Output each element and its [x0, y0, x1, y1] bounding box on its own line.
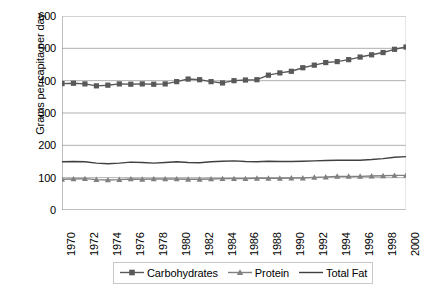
legend-marker-icon	[298, 267, 324, 278]
data-point-marker	[266, 73, 271, 78]
x-tick-label: 2000	[410, 212, 421, 256]
data-point-marker	[62, 81, 65, 86]
data-point-marker	[403, 44, 406, 49]
data-point-marker	[151, 82, 156, 87]
legend-item[interactable]: Total Fat	[298, 267, 367, 279]
data-point-marker	[335, 59, 340, 64]
legend-label: Protein	[255, 267, 289, 279]
data-point-marker	[300, 65, 305, 70]
x-tick-label: 1970	[66, 212, 77, 256]
y-tick-label: 500	[22, 43, 56, 54]
legend-marker-icon	[119, 267, 145, 278]
x-tick-label: 1994	[341, 212, 352, 256]
plot-svg	[62, 16, 406, 210]
data-point-marker	[380, 50, 385, 55]
data-point-marker	[105, 83, 110, 88]
x-axis-tick-labels: 1970197219741976197819801982198419861988…	[62, 212, 406, 258]
data-point-marker	[140, 81, 145, 86]
series-line	[62, 157, 406, 164]
line-chart: Grams per capita per day 010020030040050…	[0, 0, 423, 295]
data-point-marker	[312, 63, 317, 68]
data-point-marker	[174, 79, 179, 84]
data-point-marker	[392, 47, 397, 52]
x-tick-label: 1984	[227, 212, 238, 256]
x-tick-label: 1982	[204, 212, 215, 256]
data-point-marker	[94, 83, 99, 88]
x-tick-label: 1988	[272, 212, 283, 256]
data-point-marker	[208, 79, 213, 84]
x-tick-label: 1976	[135, 212, 146, 256]
x-tick-label: 1972	[89, 212, 100, 256]
data-point-marker	[346, 57, 351, 62]
legend-label: Carbohydrates	[147, 267, 218, 279]
x-tick-label: 1996	[364, 212, 375, 256]
legend-label: Total Fat	[326, 267, 367, 279]
y-axis-tick-labels: 0100200300400500600	[16, 0, 56, 295]
data-point-marker	[289, 69, 294, 74]
x-tick-label: 1998	[387, 212, 398, 256]
y-tick-label: 0	[22, 205, 56, 216]
y-tick-label: 200	[22, 140, 56, 151]
data-point-marker	[186, 76, 191, 81]
data-point-marker	[163, 81, 168, 86]
x-tick-label: 1990	[295, 212, 306, 256]
y-tick-label: 600	[22, 11, 56, 22]
data-point-marker	[231, 78, 236, 83]
data-point-marker	[358, 54, 363, 59]
legend-item[interactable]: Carbohydrates	[119, 267, 218, 279]
chart-legend: CarbohydratesProteinTotal Fat	[113, 262, 373, 284]
data-point-marker	[117, 81, 122, 86]
data-point-marker	[197, 77, 202, 82]
legend-item[interactable]: Protein	[227, 267, 289, 279]
data-point-marker	[323, 60, 328, 65]
x-tick-label: 1980	[181, 212, 192, 256]
data-point-marker	[220, 80, 225, 85]
legend-marker-icon	[227, 267, 253, 278]
data-point-marker	[369, 52, 374, 57]
x-tick-label: 1992	[318, 212, 329, 256]
data-point-marker	[71, 81, 76, 86]
data-point-marker	[82, 81, 87, 86]
x-tick-label: 1974	[112, 212, 123, 256]
data-point-marker	[243, 77, 248, 82]
y-tick-label: 300	[22, 108, 56, 119]
x-tick-label: 1986	[249, 212, 260, 256]
data-point-marker	[128, 82, 133, 87]
data-point-marker	[277, 70, 282, 75]
y-tick-label: 100	[22, 173, 56, 184]
plot-area	[62, 16, 406, 210]
x-tick-label: 1978	[158, 212, 169, 256]
y-tick-label: 400	[22, 76, 56, 87]
data-point-marker	[254, 77, 259, 82]
